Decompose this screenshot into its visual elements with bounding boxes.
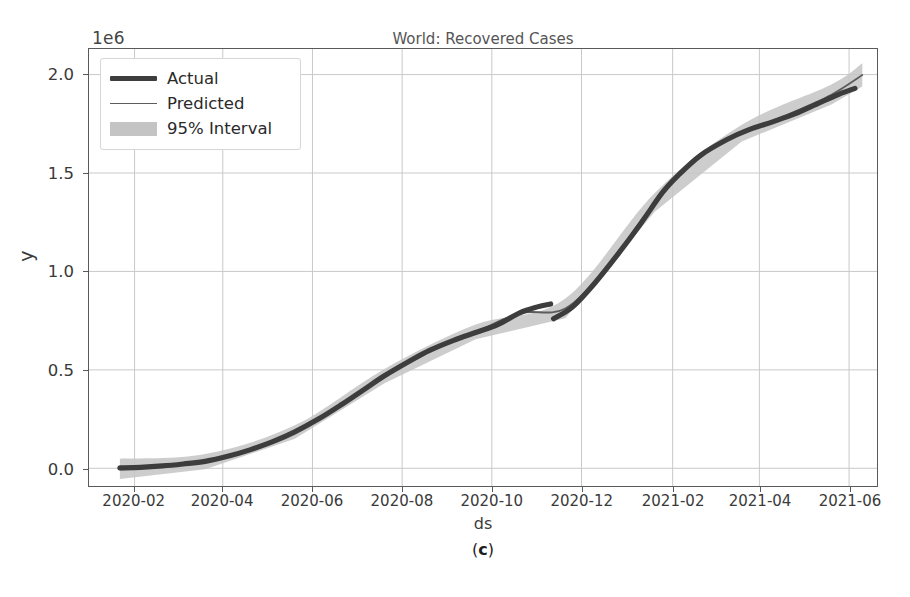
legend-item-actual: Actual <box>110 66 291 91</box>
x-axis-title: ds <box>88 514 878 533</box>
y-tick-label: 2.0 <box>22 64 74 83</box>
x-tick-label: 2021-06 <box>819 492 882 510</box>
figure-caption-letter: c <box>478 540 487 559</box>
x-tick-mark <box>492 487 493 492</box>
y-tick-label: 1.0 <box>22 262 74 281</box>
y-tick-label: 1.5 <box>22 163 74 182</box>
y-tick-mark <box>83 370 88 371</box>
x-tick-mark <box>673 487 674 492</box>
legend-label-predicted: Predicted <box>167 94 244 113</box>
x-tick-mark <box>760 487 761 492</box>
chart-title: World: Recovered Cases <box>88 30 878 48</box>
chart-legend: Actual Predicted 95% Interval <box>100 58 301 150</box>
x-tick-label: 2021-02 <box>642 492 705 510</box>
legend-swatch-actual-icon <box>110 71 157 87</box>
y-tick-mark <box>83 271 88 272</box>
y-tick-label: 0.0 <box>22 460 74 479</box>
legend-item-interval: 95% Interval <box>110 116 291 141</box>
y-tick-mark <box>83 173 88 174</box>
figure-caption: (c) <box>88 540 878 559</box>
x-tick-mark <box>850 487 851 492</box>
y-tick-mark <box>83 74 88 75</box>
legend-label-interval: 95% Interval <box>167 119 272 138</box>
y-tick-mark <box>83 469 88 470</box>
legend-swatch-interval-icon <box>110 121 157 137</box>
x-tick-label: 2020-06 <box>281 492 344 510</box>
legend-swatch-predicted-icon <box>110 96 157 112</box>
x-tick-label: 2020-08 <box>371 492 434 510</box>
x-tick-mark <box>134 487 135 492</box>
legend-label-actual: Actual <box>167 69 219 88</box>
x-tick-mark <box>582 487 583 492</box>
x-tick-label: 2020-02 <box>102 492 165 510</box>
x-tick-label: 2020-04 <box>191 492 254 510</box>
x-tick-label: 2021-04 <box>729 492 792 510</box>
x-tick-mark <box>222 487 223 492</box>
x-tick-mark <box>312 487 313 492</box>
y-axis-title: y <box>15 216 37 296</box>
y-tick-label: 0.5 <box>22 361 74 380</box>
x-tick-mark <box>402 487 403 492</box>
x-tick-label: 2020-10 <box>460 492 523 510</box>
legend-item-predicted: Predicted <box>110 91 291 116</box>
figure-panel-c: 1e6 World: Recovered Cases y ds Actual P… <box>0 0 910 597</box>
x-tick-label: 2020-12 <box>550 492 613 510</box>
